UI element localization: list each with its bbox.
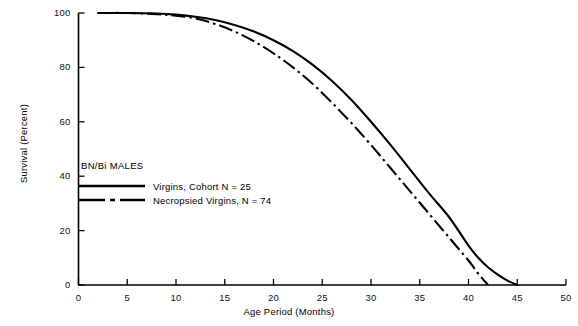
x-tick-label: 25 — [302, 292, 342, 303]
survival-curve-figure: 05101520253035404550 020406080100 Age Pe… — [0, 0, 578, 326]
x-axis-title: Age Period (Months) — [0, 306, 578, 317]
x-tick-label: 35 — [400, 292, 440, 303]
series-line-necropsied-virgins — [98, 13, 488, 285]
legend-swatch-solid-icon — [78, 181, 146, 191]
x-tick-label: 10 — [156, 292, 196, 303]
y-tick-label: 80 — [27, 61, 71, 72]
y-tick-label: 100 — [27, 7, 71, 18]
y-axis-title: Survival (Percent) — [18, 74, 29, 214]
y-tick-label: 40 — [27, 170, 71, 181]
x-tick-label: 30 — [351, 292, 391, 303]
x-tick-label: 45 — [497, 292, 537, 303]
x-tick-label: 0 — [59, 292, 99, 303]
x-tick-label: 50 — [546, 292, 578, 303]
x-axis-ticks — [79, 279, 567, 285]
legend-entry-label: Necropsied Virgins, N = 74 — [153, 195, 271, 206]
x-tick-label: 15 — [205, 292, 245, 303]
x-tick-label: 20 — [254, 292, 294, 303]
chart-legend: BN/Bi MALES Virgins, Cohort N = 25 Necro… — [78, 160, 271, 207]
y-axis-ticks — [79, 13, 85, 285]
y-tick-label: 0 — [27, 279, 71, 290]
legend-entry: Necropsied Virgins, N = 74 — [78, 193, 271, 207]
legend-entry-label: Virgins, Cohort N = 25 — [153, 181, 251, 192]
y-tick-label: 20 — [27, 225, 71, 236]
legend-title: BN/Bi MALES — [81, 160, 271, 171]
legend-swatch-dash-dot-icon — [78, 195, 146, 205]
legend-entry: Virgins, Cohort N = 25 — [78, 179, 271, 193]
x-tick-label: 40 — [449, 292, 489, 303]
x-tick-label: 5 — [107, 292, 147, 303]
y-tick-label: 60 — [27, 116, 71, 127]
